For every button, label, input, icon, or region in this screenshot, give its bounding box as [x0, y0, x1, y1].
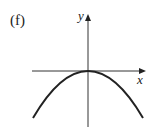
- graph: [0, 0, 150, 129]
- x-axis-arrow-icon: [139, 68, 146, 74]
- y-axis-arrow-icon: [85, 14, 91, 21]
